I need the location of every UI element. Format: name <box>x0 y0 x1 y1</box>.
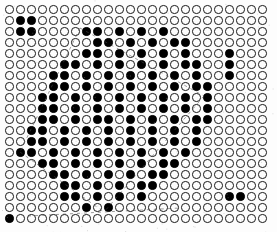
open-circle-icon <box>181 214 189 222</box>
open-circle-icon <box>258 60 266 68</box>
open-circle-icon <box>126 181 134 189</box>
dot-cell <box>147 4 158 15</box>
dot-cell <box>48 103 59 114</box>
open-circle-icon <box>236 5 244 13</box>
open-circle-icon <box>137 126 145 134</box>
open-circle-icon <box>225 214 233 222</box>
filled-dot-icon <box>115 181 123 189</box>
dot-cell <box>114 125 125 136</box>
dot-cell <box>136 136 147 147</box>
dot-cell <box>257 180 268 191</box>
dot-cell <box>103 37 114 48</box>
open-circle-icon <box>148 104 156 112</box>
filled-dot-icon <box>170 38 178 46</box>
dot-cell <box>114 147 125 158</box>
dot-cell <box>246 180 257 191</box>
dot-cell <box>103 180 114 191</box>
open-circle-icon <box>71 71 79 79</box>
open-circle-icon <box>236 16 244 24</box>
open-circle-icon <box>5 148 13 156</box>
dot-cell <box>37 37 48 48</box>
dot-cell <box>224 158 235 169</box>
open-circle-icon <box>60 148 68 156</box>
filled-dot-icon <box>192 60 200 68</box>
filled-dot-icon <box>181 60 189 68</box>
dot-cell <box>257 114 268 125</box>
open-circle-icon <box>137 137 145 145</box>
open-circle-icon <box>225 148 233 156</box>
filled-dot-icon <box>93 115 101 123</box>
open-circle-icon <box>82 214 90 222</box>
dot-cell <box>191 169 202 180</box>
filled-dot-icon <box>93 159 101 167</box>
dot-cell <box>257 158 268 169</box>
dot-cell <box>4 70 15 81</box>
open-circle-icon <box>203 192 211 200</box>
open-circle-icon <box>225 203 233 211</box>
filled-dot-icon <box>148 71 156 79</box>
dot-cell <box>158 4 169 15</box>
dot-cell <box>92 70 103 81</box>
open-circle-icon <box>93 170 101 178</box>
open-circle-icon <box>247 115 255 123</box>
dot-cell <box>235 15 246 26</box>
dot-cell <box>180 114 191 125</box>
open-circle-icon <box>71 5 79 13</box>
open-circle-icon <box>214 104 222 112</box>
dot-cell <box>15 191 26 202</box>
open-circle-icon <box>258 126 266 134</box>
dot-cell <box>169 15 180 26</box>
dot-cell <box>59 191 70 202</box>
dot-cell <box>15 48 26 59</box>
dot-cell <box>147 92 158 103</box>
open-circle-icon <box>71 126 79 134</box>
dot-cell <box>147 81 158 92</box>
open-circle-icon <box>247 104 255 112</box>
filled-dot-icon <box>49 159 57 167</box>
dot-cell <box>103 26 114 37</box>
open-circle-icon <box>247 93 255 101</box>
dot-cell <box>202 136 213 147</box>
filled-dot-icon <box>159 27 167 35</box>
dot-cell <box>70 114 81 125</box>
open-circle-icon <box>247 5 255 13</box>
dot-cell <box>246 48 257 59</box>
dot-cell <box>59 202 70 213</box>
dot-cell <box>125 48 136 59</box>
filled-dot-icon <box>93 38 101 46</box>
dot-cell <box>213 158 224 169</box>
dot-cell <box>4 213 15 224</box>
open-circle-icon <box>115 5 123 13</box>
open-circle-icon <box>203 5 211 13</box>
open-circle-icon <box>16 93 24 101</box>
dot-cell <box>37 191 48 202</box>
dot-row <box>4 125 268 136</box>
dot-cell <box>70 158 81 169</box>
open-circle-icon <box>38 16 46 24</box>
dot-cell <box>48 136 59 147</box>
dot-cell <box>136 70 147 81</box>
dot-cell <box>180 103 191 114</box>
open-circle-icon <box>27 159 35 167</box>
dot-cell <box>70 15 81 26</box>
open-circle-icon <box>170 148 178 156</box>
dot-cell <box>202 26 213 37</box>
dot-cell <box>125 103 136 114</box>
filled-dot-icon <box>181 49 189 57</box>
dot-cell <box>92 4 103 15</box>
dot-cell <box>180 213 191 224</box>
open-circle-icon <box>16 38 24 46</box>
dot-cell <box>125 191 136 202</box>
open-circle-icon <box>38 181 46 189</box>
dot-cell <box>224 136 235 147</box>
filled-dot-icon <box>93 60 101 68</box>
open-circle-icon <box>170 27 178 35</box>
dot-cell <box>202 15 213 26</box>
dot-cell <box>114 114 125 125</box>
dot-cell <box>70 70 81 81</box>
dot-cell <box>70 125 81 136</box>
dot-cell <box>169 70 180 81</box>
dot-row <box>4 15 268 26</box>
dot-cell <box>48 180 59 191</box>
filled-dot-icon <box>93 148 101 156</box>
